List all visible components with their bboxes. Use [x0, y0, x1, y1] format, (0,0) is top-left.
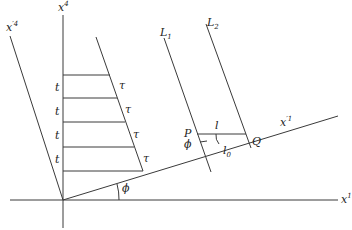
tau-label-2: τ — [125, 103, 132, 116]
phi-origin-label: ϕ — [122, 182, 130, 195]
L2-line — [206, 24, 251, 148]
phi-tick — [200, 141, 207, 142]
x4-prime-axis — [10, 36, 63, 200]
tau-label-4: τ — [143, 152, 150, 165]
spacetime-diagram: x1 x4 x′4 x′1 L1 L2 P Q l l0 ϕ ϕ t t t t… — [0, 0, 352, 230]
L1-label: L1 — [159, 26, 172, 41]
x4-prime-axis-label: x′4 — [6, 20, 18, 34]
x1-axis-label: x1 — [341, 192, 352, 206]
tau-label-3: τ — [133, 128, 140, 141]
ladder-rungs — [63, 75, 143, 171]
x1-prime-axis-label: x′1 — [280, 115, 292, 129]
phi-q-arc — [216, 134, 219, 144]
x1-prime-axis — [63, 116, 338, 200]
phi-origin-arc — [117, 184, 119, 200]
t-label-4: t — [55, 153, 60, 166]
t-label-1: t — [55, 81, 60, 94]
phi-P-label: ϕ — [184, 138, 192, 151]
L1-line — [164, 38, 211, 172]
l0-label: l0 — [223, 144, 232, 159]
t-label-2: t — [55, 105, 60, 118]
l-label: l — [215, 119, 219, 132]
x4-axis-label: x4 — [58, 0, 69, 14]
tau-worldline — [96, 37, 143, 171]
L2-label: L2 — [206, 16, 219, 31]
tau-label-1: τ — [119, 79, 126, 92]
t-label-3: t — [55, 129, 60, 142]
point-Q-label: Q — [252, 135, 261, 148]
